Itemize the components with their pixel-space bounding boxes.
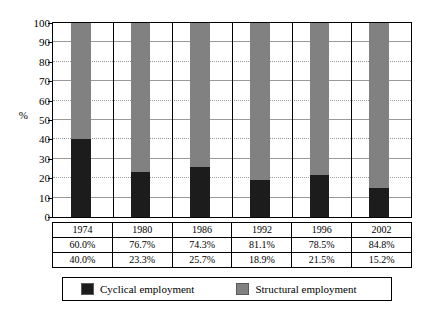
cyclical-row-cell: 25.7% [172, 253, 232, 268]
year-row-cell: 2002 [352, 223, 412, 238]
bar-cyclical-1974 [71, 139, 91, 217]
bar-group-1992 [250, 23, 270, 217]
cyclical-row-cell: 40.0% [53, 253, 113, 268]
legend-entry-structural[interactable]: Structural employment [236, 283, 356, 295]
year-row-cell: 1974 [53, 223, 113, 238]
y-tick-label-20: 20 [26, 173, 50, 184]
structural-row-cell: 74.3% [172, 238, 232, 253]
bar-structural-1974 [71, 23, 91, 139]
category-divider-4 [292, 23, 293, 217]
bar-structural-1986 [190, 23, 210, 167]
bar-group-1996 [310, 23, 330, 217]
structural-row-cell: 76.7% [112, 238, 172, 253]
table-row: 197419801986199219962002 [53, 223, 412, 238]
legend-label: Structural employment [255, 284, 356, 295]
y-tick-label-50: 50 [26, 115, 50, 126]
bar-cyclical-1996 [310, 175, 330, 217]
structural-row-cell: 84.8% [352, 238, 412, 253]
y-tick-label-80: 80 [26, 57, 50, 68]
bar-structural-2002 [369, 23, 389, 188]
cyclical-row-cell: 15.2% [352, 253, 412, 268]
cyclical-row-cell: 23.3% [112, 253, 172, 268]
bar-group-1980 [131, 23, 151, 217]
stacked-bar-chart: % 1009080706050403020100 197419801986199… [0, 0, 425, 312]
year-row-cell: 1992 [232, 223, 292, 238]
y-tick-label-100: 100 [26, 18, 50, 29]
category-divider-5 [351, 23, 352, 217]
plot-area [52, 22, 412, 218]
bar-group-2002 [369, 23, 389, 217]
year-row-cell: 1980 [112, 223, 172, 238]
category-divider-3 [232, 23, 233, 217]
bar-structural-1996 [310, 23, 330, 175]
cyclical-row-cell: 21.5% [292, 253, 352, 268]
bar-structural-1992 [250, 23, 270, 180]
year-row-cell: 1996 [292, 223, 352, 238]
y-tick-label-40: 40 [26, 134, 50, 145]
category-divider-2 [172, 23, 173, 217]
bar-cyclical-2002 [369, 188, 389, 217]
y-tick-label-60: 60 [26, 96, 50, 107]
y-tick-label-0: 0 [26, 212, 50, 223]
cyclical-row-cell: 18.9% [232, 253, 292, 268]
bar-group-1974 [71, 23, 91, 217]
table-row: 40.0%23.3%25.7%18.9%21.5%15.2% [53, 253, 412, 268]
y-tick-label-90: 90 [26, 37, 50, 48]
y-tick-label-10: 10 [26, 193, 50, 204]
structural-row-cell: 60.0% [53, 238, 113, 253]
bar-structural-1980 [131, 23, 151, 172]
bar-cyclical-1980 [131, 172, 151, 217]
structural-row-cell: 78.5% [292, 238, 352, 253]
chart-legend: Cyclical employmentStructural employment [62, 277, 392, 301]
data-table: 19741980198619921996200260.0%76.7%74.3%8… [52, 222, 412, 268]
legend-entry-cyclical[interactable]: Cyclical employment [81, 283, 194, 295]
year-row-cell: 1986 [172, 223, 232, 238]
legend-label: Cyclical employment [100, 284, 194, 295]
bar-cyclical-1992 [250, 180, 270, 217]
y-tick-label-70: 70 [26, 76, 50, 87]
structural-row-cell: 81.1% [232, 238, 292, 253]
y-tick-label-30: 30 [26, 154, 50, 165]
bar-cyclical-1986 [190, 167, 210, 217]
category-divider-1 [113, 23, 114, 217]
bar-group-1986 [190, 23, 210, 217]
table-row: 60.0%76.7%74.3%81.1%78.5%84.8% [53, 238, 412, 253]
legend-swatch-icon [236, 283, 249, 295]
legend-swatch-icon [81, 283, 94, 295]
